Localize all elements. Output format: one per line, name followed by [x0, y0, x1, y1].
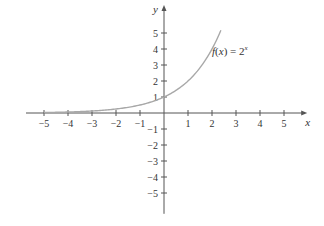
- y-tick-label: −2: [147, 140, 158, 151]
- x-tick-label: −2: [111, 118, 122, 129]
- y-tick-label: −1: [147, 124, 158, 135]
- x-tick-label: 1: [186, 118, 191, 129]
- function-label: f(x) = 2x: [212, 44, 249, 58]
- y-tick-label: 5: [153, 28, 158, 39]
- x-tick-label: 2: [210, 118, 215, 129]
- y-axis-arrow-icon: [162, 5, 167, 11]
- x-tick-label: −5: [39, 118, 50, 129]
- x-tick-label: 4: [258, 118, 263, 129]
- y-tick-label: −5: [147, 188, 158, 199]
- x-axis-arrow-icon: [301, 111, 307, 116]
- y-tick-label: 2: [153, 76, 158, 87]
- x-tick-label: 5: [282, 118, 287, 129]
- y-axis: [162, 5, 167, 214]
- x-tick-label: −3: [87, 118, 98, 129]
- function-curve: [44, 30, 221, 112]
- exponential-function-graph: −5−4−3−2−112345 −5−4−3−2−112345 x y f(x)…: [0, 0, 324, 226]
- y-axis-label: y: [152, 3, 158, 15]
- x-tick-label: 3: [234, 118, 239, 129]
- x-tick-label: −1: [135, 118, 146, 129]
- y-tick-label: −3: [147, 156, 158, 167]
- y-tick-label: 4: [153, 44, 158, 55]
- y-tick-label: 3: [153, 60, 158, 71]
- y-tick-label: −4: [147, 172, 158, 183]
- x-axis-label: x: [304, 116, 310, 128]
- x-tick-label: −4: [63, 118, 74, 129]
